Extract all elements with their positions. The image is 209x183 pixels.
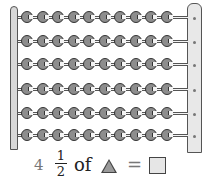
abacus-bead xyxy=(68,58,80,70)
triangle-icon xyxy=(101,159,117,173)
abacus-bead xyxy=(114,107,126,119)
abacus-bead xyxy=(37,11,49,23)
abacus-bead xyxy=(130,83,142,95)
post-hole xyxy=(193,113,196,116)
abacus-bead xyxy=(161,11,173,23)
abacus-bead xyxy=(68,11,80,23)
abacus-left-post xyxy=(10,6,18,150)
abacus-bead xyxy=(99,11,111,23)
abacus-bead xyxy=(145,11,157,23)
abacus-bead xyxy=(37,83,49,95)
abacus-bead xyxy=(68,35,80,47)
abacus-bead xyxy=(83,11,95,23)
abacus-bead xyxy=(130,35,142,47)
fraction-problem: 4 1 2 of = xyxy=(0,148,209,183)
abacus-right-post xyxy=(187,3,202,153)
abacus-bead xyxy=(145,58,157,70)
abacus-bead xyxy=(52,11,64,23)
fraction-denominator: 2 xyxy=(57,164,65,179)
abacus-bead xyxy=(21,58,33,70)
abacus-bead xyxy=(99,129,111,141)
abacus-bead xyxy=(130,107,142,119)
abacus-bead xyxy=(161,107,173,119)
abacus-bead xyxy=(83,129,95,141)
abacus-bead xyxy=(161,83,173,95)
abacus-bead xyxy=(83,107,95,119)
abacus-bead xyxy=(52,129,64,141)
abacus-bead xyxy=(161,35,173,47)
abacus-bead xyxy=(83,58,95,70)
abacus xyxy=(0,0,209,152)
abacus-bead xyxy=(114,35,126,47)
answer-box[interactable] xyxy=(149,157,166,174)
abacus-bead xyxy=(37,58,49,70)
abacus-bead xyxy=(52,58,64,70)
post-hole xyxy=(193,135,196,138)
abacus-bead xyxy=(21,107,33,119)
abacus-bead xyxy=(21,11,33,23)
post-hole xyxy=(193,64,196,67)
abacus-bead xyxy=(99,35,111,47)
abacus-bead xyxy=(161,129,173,141)
abacus-bead xyxy=(145,83,157,95)
post-hole xyxy=(193,89,196,92)
of-text: of xyxy=(74,154,92,175)
abacus-bead xyxy=(130,11,142,23)
abacus-bead xyxy=(99,83,111,95)
abacus-bead xyxy=(114,11,126,23)
abacus-bead xyxy=(52,107,64,119)
problem-number: 4 xyxy=(34,156,44,174)
abacus-bead xyxy=(37,129,49,141)
abacus-bead xyxy=(37,107,49,119)
fraction-numerator: 1 xyxy=(57,148,65,163)
abacus-bead xyxy=(83,35,95,47)
post-hole xyxy=(193,41,196,44)
abacus-bead xyxy=(130,129,142,141)
abacus-bead xyxy=(52,35,64,47)
abacus-bead xyxy=(99,107,111,119)
post-hole xyxy=(193,17,196,20)
abacus-bead xyxy=(145,35,157,47)
abacus-bead xyxy=(114,83,126,95)
abacus-bead xyxy=(130,58,142,70)
abacus-bead xyxy=(68,129,80,141)
abacus-bead xyxy=(114,129,126,141)
abacus-bead xyxy=(21,35,33,47)
abacus-bead xyxy=(68,107,80,119)
fraction-one-half: 1 2 xyxy=(55,149,67,178)
abacus-bead xyxy=(21,129,33,141)
abacus-bead xyxy=(161,58,173,70)
abacus-bead xyxy=(114,58,126,70)
abacus-bead xyxy=(99,58,111,70)
equals-sign: = xyxy=(127,154,142,175)
abacus-bead xyxy=(52,83,64,95)
abacus-bead xyxy=(145,107,157,119)
abacus-bead xyxy=(21,83,33,95)
abacus-bead xyxy=(37,35,49,47)
abacus-bead xyxy=(83,83,95,95)
abacus-bead xyxy=(145,129,157,141)
abacus-bead xyxy=(68,83,80,95)
